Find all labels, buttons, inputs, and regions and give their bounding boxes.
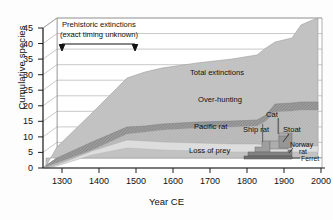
over-hunting-label: Over-hunting <box>198 95 242 104</box>
x-tick-1800: 1800 <box>230 176 264 186</box>
extinctions-figure: Cumulative species Year CE 45 40 35 30 2… <box>0 0 333 220</box>
y-tick-30: 30 <box>17 70 33 80</box>
stoat-label: Stoat <box>283 125 301 134</box>
left-depth-panel <box>43 18 57 168</box>
cat-label: Cat <box>266 110 278 119</box>
y-tick-45: 45 <box>17 23 33 33</box>
x-tick-1400: 1400 <box>82 176 116 186</box>
ship-rat-label: Ship rat <box>243 125 269 134</box>
x-tick-1300: 1300 <box>45 176 79 186</box>
chart-canvas <box>0 0 333 220</box>
prehistoric-note-line1: Prehistoric extinctions <box>62 20 136 29</box>
y-axis-ticks <box>38 28 43 168</box>
floor-panel <box>43 158 322 168</box>
x-tick-1900: 1900 <box>267 176 301 186</box>
y-tick-0: 0 <box>17 163 33 173</box>
x-tick-1600: 1600 <box>156 176 190 186</box>
y-tick-35: 35 <box>17 54 33 64</box>
y-tick-15: 15 <box>17 116 33 126</box>
ferret-label: Ferret <box>301 155 319 162</box>
x-tick-2000: 2000 <box>304 176 333 186</box>
x-axis-ticks <box>62 168 321 173</box>
block-ferret <box>244 156 292 159</box>
y-tick-20: 20 <box>17 101 33 111</box>
y-tick-25: 25 <box>17 85 33 95</box>
total-extinctions-label: Total extinctions <box>190 68 244 77</box>
prehistoric-note-line2: (exact timing unknown) <box>60 30 138 39</box>
y-tick-10: 10 <box>17 132 33 142</box>
cat-stem <box>278 118 280 134</box>
x-axis-title: Year CE <box>0 196 333 207</box>
y-tick-5: 5 <box>17 147 33 157</box>
x-tick-1500: 1500 <box>119 176 153 186</box>
y-tick-40: 40 <box>17 39 33 49</box>
pacific-rat-label: Pacific rat <box>194 122 227 131</box>
loss-of-prey-label: Loss of prey <box>189 146 230 155</box>
x-tick-1700: 1700 <box>193 176 227 186</box>
